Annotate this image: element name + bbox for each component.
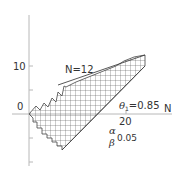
beta-symbol: β [108, 137, 115, 148]
x-tick-label-20: 20 [119, 116, 132, 127]
y-tick-label-0: 0 [17, 101, 23, 112]
theta-annotation: θ1=0.85 [119, 100, 160, 112]
alpha-symbol: α [109, 125, 116, 136]
x-axis-label: N [164, 103, 171, 114]
y-tick-label-10: 10 [13, 61, 26, 72]
alpha-beta-value: 0.05 [117, 133, 137, 143]
theta-value: =0.85 [129, 100, 160, 111]
n-label: N=12 [65, 64, 94, 75]
continuation-region [0, 0, 184, 177]
sequential-test-diagram: 10 0 20 N N=12 θ1=0.85 α β 0.05 [0, 0, 184, 177]
